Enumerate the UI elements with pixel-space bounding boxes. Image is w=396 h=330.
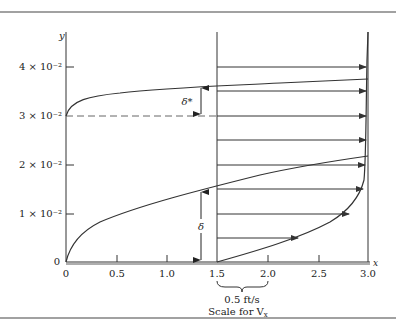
scale-brace: [217, 281, 268, 292]
svg-text:1.0: 1.0: [159, 268, 175, 279]
x-axis-label: x: [373, 258, 378, 268]
svg-text:2 × 10⁻²: 2 × 10⁻²: [19, 159, 62, 170]
y-axis-label: y: [58, 30, 65, 41]
svg-text:4 × 10⁻²: 4 × 10⁻²: [19, 61, 62, 72]
svg-text:3.0: 3.0: [360, 268, 376, 279]
boundary-layer-diagram: y x 0 1 × 10⁻² 2 × 10⁻² 3 × 10⁻² 4 × 10⁻…: [0, 0, 396, 330]
svg-text:0.5: 0.5: [109, 268, 125, 279]
svg-text:3 × 10⁻²: 3 × 10⁻²: [19, 110, 62, 121]
scale-caption: Scale for Vx: [208, 306, 268, 319]
delta-star-label: δ*: [181, 96, 192, 107]
svg-text:0: 0: [54, 256, 60, 267]
delta-label: δ: [198, 221, 204, 232]
svg-text:2.5: 2.5: [311, 268, 327, 279]
x-ticks: 0 0.5 1.0 1.5 2.0 2.5 3.0: [63, 255, 376, 279]
svg-text:1 × 10⁻²: 1 × 10⁻²: [19, 208, 62, 219]
scale-value: 0.5 ft/s: [224, 294, 259, 305]
svg-text:1.5: 1.5: [209, 268, 225, 279]
svg-text:2.0: 2.0: [260, 268, 276, 279]
svg-text:0: 0: [63, 268, 69, 279]
